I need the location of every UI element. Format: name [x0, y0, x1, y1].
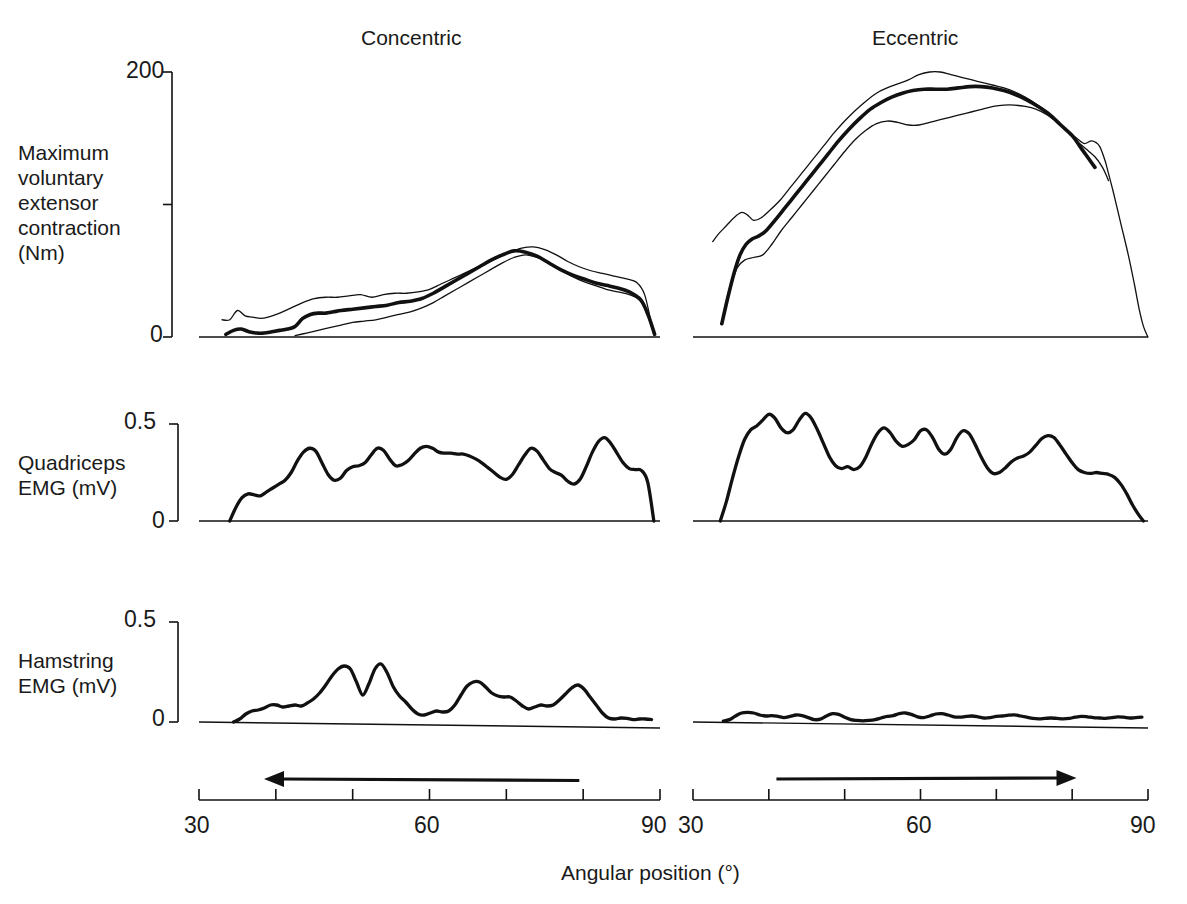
- chart-hamstring-emg-concentric: [234, 664, 652, 722]
- plot-surface: [0, 0, 1187, 904]
- chart-hamstring-emg-eccentric: [723, 712, 1142, 721]
- direction-arrow-eccentric: [776, 778, 1058, 779]
- series-quadriceps_emg: [720, 413, 1143, 521]
- series-upper_sd: [222, 247, 651, 321]
- chart-torque-eccentric: [713, 72, 1148, 337]
- series-hamstring_emg: [723, 712, 1142, 721]
- direction-arrow-concentric: [282, 779, 579, 781]
- panel-baseline: [693, 722, 1148, 728]
- arrowhead-left-icon: [264, 771, 284, 787]
- chart-quadriceps-emg-concentric: [230, 438, 654, 521]
- chart-torque-concentric: [222, 247, 655, 336]
- series-baseline_drop: [1106, 162, 1148, 337]
- series-mean: [722, 86, 1095, 323]
- series-upper_sd: [713, 72, 1106, 242]
- arrowhead-right-icon: [1057, 770, 1077, 786]
- panel-baseline: [199, 722, 660, 728]
- series-hamstring_emg: [234, 664, 652, 722]
- series-mean: [226, 251, 655, 335]
- series-lower_sd: [295, 255, 654, 336]
- figure-container: Concentric Eccentric Maximum voluntary e…: [0, 0, 1187, 904]
- series-quadriceps_emg: [230, 438, 654, 521]
- series-lower_sd: [725, 105, 1109, 311]
- chart-quadriceps-emg-eccentric: [720, 413, 1143, 521]
